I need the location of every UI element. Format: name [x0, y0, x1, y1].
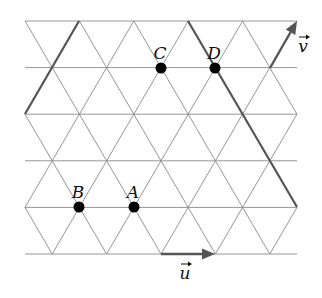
grid-diagonal-line — [270, 207, 297, 254]
triangular-grid-diagram: uv ABCD — [0, 0, 322, 298]
grid-diagonal-line — [161, 161, 188, 208]
grid-diagonal-line — [134, 68, 161, 115]
vectors: uv — [161, 21, 310, 283]
grid-diagonal-line — [188, 68, 215, 115]
grid-diagonal-line — [270, 68, 297, 115]
point-label-A: A — [125, 182, 139, 202]
grid-diagonal-line — [25, 114, 52, 161]
grid-diagonal-line — [243, 161, 270, 208]
grid-diagonal-line — [107, 68, 134, 115]
grid-diagonal-line — [243, 207, 270, 254]
point-D — [210, 63, 221, 74]
point-C — [156, 63, 167, 74]
grid-diagonal-line — [243, 21, 270, 68]
grid-diagonal-line — [243, 68, 270, 115]
point-label-C: C — [153, 43, 166, 63]
grid-diagonal-line — [25, 161, 52, 208]
grid-diagonal-line — [52, 114, 79, 161]
grid-diagonal-line — [188, 161, 215, 208]
grid-diagonal-line — [134, 114, 161, 161]
grid-diagonal-line — [134, 207, 161, 254]
grid-diagonal-line — [25, 21, 52, 68]
grid-diagonal-line — [161, 207, 188, 254]
point-A — [129, 202, 140, 213]
grid-diagonal-line — [79, 21, 106, 68]
grid-diagonal-line — [52, 207, 79, 254]
grid-diagonal-line — [270, 114, 297, 161]
grid-diagonal-line — [215, 114, 242, 161]
point-label-D: D — [206, 43, 221, 63]
grid-diagonal-line — [188, 114, 215, 161]
vector-v-shaft — [270, 32, 291, 68]
grid-diagonal-line — [79, 68, 106, 115]
grid-diagonal-line — [79, 207, 106, 254]
point-B — [74, 202, 85, 213]
grid-diagonal-line — [107, 207, 134, 254]
grid-diagonal-line — [25, 207, 52, 254]
grid-diagonal-line — [188, 207, 215, 254]
grid-diagonal-line — [161, 68, 188, 115]
vector-u-label: u — [180, 263, 191, 283]
vector-arrow-accent-head — [306, 35, 310, 40]
point-label-B: B — [71, 182, 85, 202]
grid-diagonal-line — [215, 161, 242, 208]
grid-diagonal-line — [215, 207, 242, 254]
grid-diagonal-line — [107, 21, 134, 68]
grid-diagonal-line — [107, 114, 134, 161]
grid-diagonal-line — [161, 114, 188, 161]
grid-diagonal-line — [79, 114, 106, 161]
grid-diagonal-line — [52, 68, 79, 115]
